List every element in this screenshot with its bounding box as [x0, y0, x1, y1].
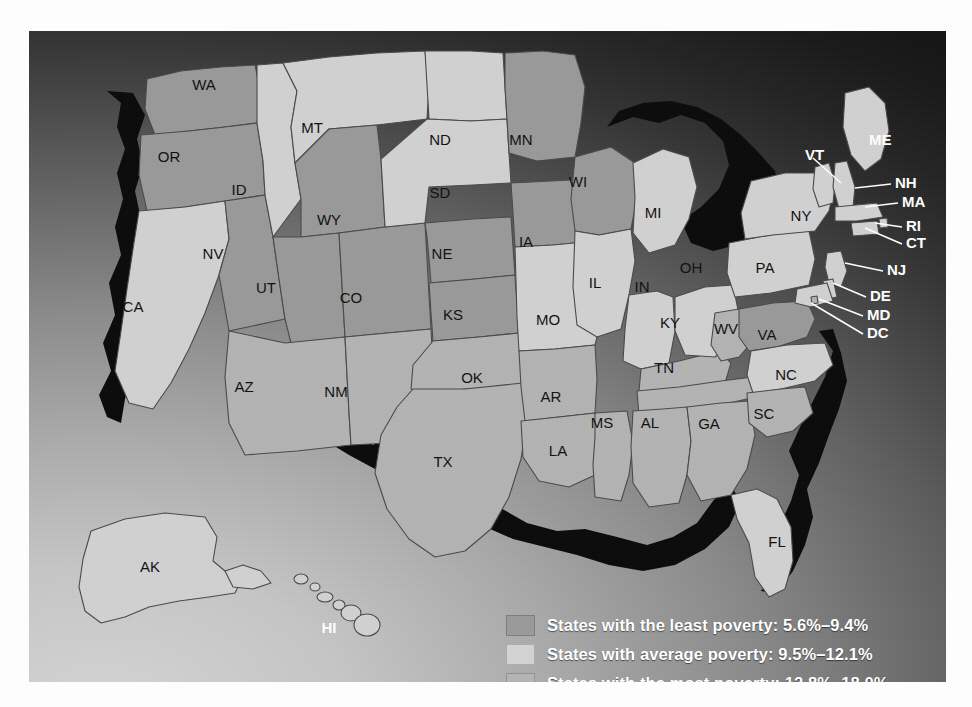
state-label-ia: IA [519, 233, 533, 250]
state-label-nj: NJ [887, 261, 906, 278]
state-label-dc: DC [867, 324, 889, 341]
state-label-az: AZ [234, 378, 253, 395]
state-label-ms: MS [591, 414, 614, 431]
state-label-de: DE [870, 287, 891, 304]
state-label-ma: MA [902, 193, 925, 210]
state-label-me: ME [869, 131, 892, 148]
legend-swatch-most [506, 673, 535, 682]
state-mi[interactable] [633, 149, 697, 253]
state-label-la: LA [549, 442, 567, 459]
state-label-id: ID [232, 181, 247, 198]
state-label-co: CO [340, 289, 363, 306]
state-label-ri: RI [906, 217, 921, 234]
state-label-hi: HI [322, 619, 337, 636]
state-label-pa: PA [756, 259, 775, 276]
state-label-nd: ND [429, 131, 451, 148]
leader-line-ct [865, 228, 902, 244]
state-label-sc: SC [754, 405, 775, 422]
state-hi-island-6[interactable] [354, 614, 380, 636]
state-va[interactable] [739, 301, 815, 351]
state-ak[interactable] [79, 513, 243, 623]
state-ut[interactable] [273, 233, 345, 343]
leader-line-ri [875, 223, 902, 227]
state-label-tx: TX [433, 453, 452, 470]
state-label-ar: AR [541, 388, 562, 405]
page-root: WAORCANVIDMTWYUTAZCONMNDSDNEKSOKTXMNIAMO… [0, 0, 972, 707]
state-label-oh: OH [680, 259, 703, 276]
state-ar[interactable] [519, 345, 597, 421]
state-label-nh: NH [895, 174, 917, 191]
state-label-in: IN [635, 278, 650, 295]
legend-swatch-least [506, 615, 535, 636]
state-nd[interactable] [425, 51, 507, 121]
state-label-fl: FL [768, 533, 786, 550]
state-label-ky: KY [660, 314, 680, 331]
state-label-ne: NE [432, 245, 453, 262]
state-co[interactable] [339, 223, 431, 337]
state-label-il: IL [589, 274, 602, 291]
state-label-nm: NM [324, 383, 347, 400]
state-label-ca: CA [123, 298, 144, 315]
state-label-mt: MT [301, 119, 323, 136]
state-label-wv: WV [714, 320, 738, 337]
legend-label-most: States with the most poverty: 12.8%–18.0… [547, 674, 889, 682]
leader-line-dc [811, 303, 863, 334]
leader-line-de [833, 283, 866, 297]
map-legend: States with the least poverty: 5.6%–9.4%… [506, 611, 936, 682]
state-label-ak: AK [140, 558, 160, 575]
state-label-ok: OK [461, 369, 483, 386]
state-label-ct: CT [906, 234, 926, 251]
state-label-or: OR [158, 148, 181, 165]
state-vt[interactable] [813, 163, 835, 207]
state-label-md: MD [867, 306, 890, 323]
state-hi-island-2[interactable] [310, 583, 320, 591]
state-label-mo: MO [536, 311, 560, 328]
legend-label-average: States with average poverty: 9.5%–12.1% [547, 645, 873, 664]
state-hi-island-3[interactable] [317, 592, 333, 602]
state-label-sd: SD [430, 184, 451, 201]
leader-line-md [819, 299, 863, 316]
state-label-wy: WY [317, 211, 341, 228]
state-label-ga: GA [698, 415, 720, 432]
state-ak-aleutians[interactable] [225, 565, 271, 589]
state-hi-island-1[interactable] [294, 574, 308, 584]
state-label-al: AL [641, 414, 659, 431]
state-label-nv: NV [203, 245, 224, 262]
legend-row-most: States with the most poverty: 12.8%–18.0… [506, 669, 936, 682]
leader-line-nh [855, 184, 891, 188]
legend-row-average: States with average poverty: 9.5%–12.1% [506, 640, 936, 669]
state-label-ks: KS [443, 306, 463, 323]
state-wi[interactable] [571, 147, 637, 235]
state-label-mn: MN [509, 131, 532, 148]
legend-swatch-average [506, 644, 535, 665]
state-label-ut: UT [256, 279, 276, 296]
state-label-wi: WI [569, 173, 587, 190]
state-label-vt: VT [805, 146, 824, 163]
state-me[interactable] [843, 87, 889, 171]
state-label-mi: MI [645, 204, 662, 221]
map-frame: WAORCANVIDMTWYUTAZCONMNDSDNEKSOKTXMNIAMO… [29, 31, 946, 682]
state-label-nc: NC [775, 366, 797, 383]
legend-label-least: States with the least poverty: 5.6%–9.4% [547, 616, 868, 635]
state-label-wa: WA [192, 76, 216, 93]
leader-line-nj [845, 263, 883, 271]
state-label-tn: TN [654, 359, 674, 376]
legend-row-least: States with the least poverty: 5.6%–9.4% [506, 611, 936, 640]
state-label-va: VA [758, 326, 777, 343]
state-label-ny: NY [791, 207, 812, 224]
state-nh[interactable] [833, 161, 855, 209]
us-map-svg: WAORCANVIDMTWYUTAZCONMNDSDNEKSOKTXMNIAMO… [29, 31, 946, 682]
